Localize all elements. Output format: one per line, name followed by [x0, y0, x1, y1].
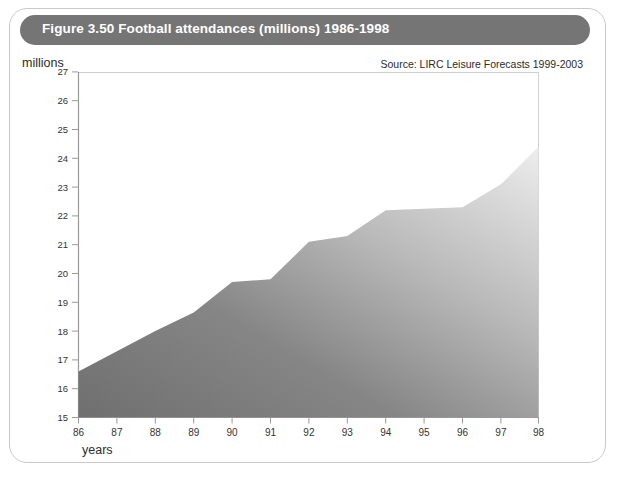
y-tick-label: 27 [57, 66, 68, 77]
x-tick-label: 87 [111, 427, 123, 438]
y-tick-label: 16 [57, 383, 68, 394]
y-tick-label: 20 [57, 268, 68, 279]
x-tick-label: 91 [265, 427, 277, 438]
area-series-football-attendances [79, 147, 539, 417]
x-tick-label: 96 [457, 427, 469, 438]
x-tick-label: 95 [419, 427, 431, 438]
chart-plot-area: 15 16 17 18 19 20 21 22 23 24 [10, 9, 607, 464]
x-axis-title: years [82, 443, 113, 457]
x-tick-label: 97 [495, 427, 507, 438]
y-tick-label: 19 [57, 297, 68, 308]
figure-card: Figure 3.50 Football attendances (millio… [9, 8, 606, 463]
y-tick-label: 17 [57, 354, 68, 365]
x-tick-label: 86 [73, 427, 85, 438]
x-tick-label: 94 [380, 427, 392, 438]
y-tick-label: 24 [57, 153, 68, 164]
x-tick-label: 93 [342, 427, 354, 438]
y-tick-label: 21 [57, 239, 68, 250]
x-tick-label: 98 [533, 427, 545, 438]
area-chart-svg: 15 16 17 18 19 20 21 22 23 24 [10, 9, 607, 464]
x-axis-ticks: 86 87 88 89 90 91 92 93 94 95 [73, 418, 545, 439]
x-tick-label: 89 [188, 427, 200, 438]
y-tick-label: 25 [57, 124, 68, 135]
y-tick-label: 22 [57, 210, 68, 221]
y-tick-label: 26 [57, 95, 68, 106]
y-tick-label: 15 [57, 412, 68, 423]
x-tick-label: 88 [150, 427, 162, 438]
y-tick-label: 18 [57, 326, 68, 337]
y-tick-label: 23 [57, 182, 68, 193]
x-tick-label: 92 [303, 427, 315, 438]
y-axis-ticks: 15 16 17 18 19 20 21 22 23 24 [57, 66, 78, 423]
x-tick-label: 90 [227, 427, 239, 438]
